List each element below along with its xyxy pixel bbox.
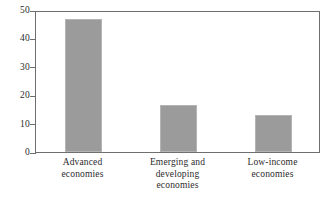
y-axis-tick-label: 30 — [4, 63, 30, 73]
category-label-line: Advanced — [35, 157, 130, 169]
y-axis-tick — [30, 67, 36, 68]
x-axis-category-labels: AdvancedeconomiesEmerging anddevelopinge… — [35, 157, 320, 203]
y-axis-tick-label: 50 — [4, 6, 30, 16]
y-axis-tick-label: 20 — [4, 91, 30, 101]
y-axis-tick-label: 0 — [4, 148, 30, 158]
category-label-1: Advancedeconomies — [35, 157, 130, 180]
bar-1 — [65, 19, 102, 152]
category-label-line: economies — [35, 169, 130, 181]
y-axis-tick-label: 10 — [4, 120, 30, 130]
category-label-line: developing — [130, 169, 225, 181]
category-label-3: Low-incomeeconomies — [225, 157, 320, 180]
category-label-line: economies — [130, 180, 225, 192]
y-axis-tick — [30, 124, 36, 125]
bar-2 — [160, 105, 197, 152]
plot-area-frame — [35, 11, 320, 153]
category-label-line: economies — [225, 169, 320, 181]
y-axis-tick-label: 40 — [4, 34, 30, 44]
y-axis: 01020304050 — [0, 0, 30, 204]
category-label-2: Emerging anddevelopingeconomies — [130, 157, 225, 192]
y-axis-tick — [30, 153, 36, 154]
y-axis-tick — [30, 96, 36, 97]
y-axis-tick — [30, 39, 36, 40]
category-label-line: Emerging and — [130, 157, 225, 169]
bars-layer — [36, 12, 319, 152]
bar-3 — [255, 115, 292, 152]
y-axis-tick — [30, 11, 36, 12]
category-label-line: Low-income — [225, 157, 320, 169]
bar-chart-figure: 01020304050 AdvancedeconomiesEmerging an… — [0, 0, 332, 204]
